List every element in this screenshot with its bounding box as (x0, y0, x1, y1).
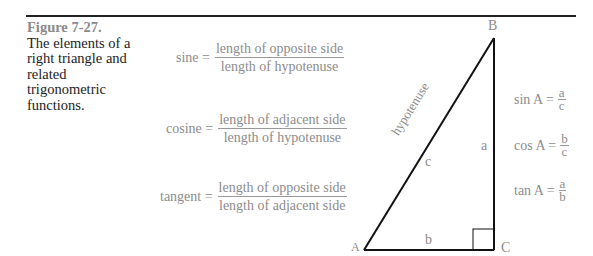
side-a-label: a (481, 138, 487, 154)
hypotenuse-line (364, 38, 494, 250)
cos-a-denominator: c (561, 146, 567, 158)
tan-a-denominator: b (559, 191, 566, 203)
side-c-label: c (425, 154, 431, 170)
cos-a-label: cos A = (514, 138, 556, 154)
cos-a-fraction: b c (560, 133, 569, 158)
vertex-c-label: C (501, 240, 510, 256)
vertex-a-label: A (351, 240, 360, 255)
tan-a-fraction: a b (559, 178, 567, 203)
cos-a-ratio: cos A = b c (514, 133, 569, 158)
tan-a-label: tan A = (514, 183, 555, 199)
side-b-label: b (425, 232, 432, 248)
sin-a-fraction: a c (558, 87, 566, 112)
right-angle-marker (473, 229, 494, 250)
sin-a-label: sin A = (514, 92, 554, 108)
sin-a-ratio: sin A = a c (514, 87, 566, 112)
vertex-b-label: B (488, 18, 497, 34)
sin-a-denominator: c (559, 100, 565, 112)
tan-a-ratio: tan A = a b (514, 178, 566, 203)
